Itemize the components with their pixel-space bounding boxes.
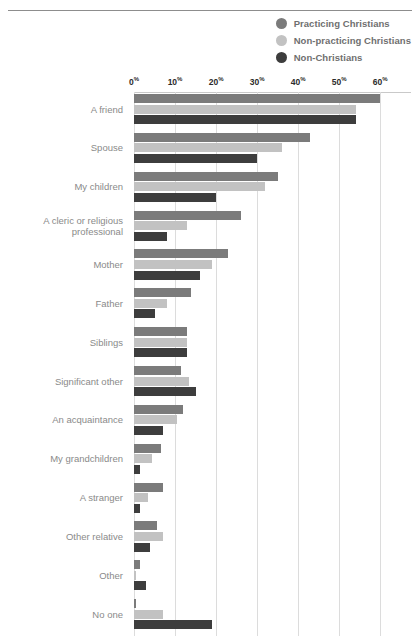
bar[interactable] bbox=[134, 143, 282, 152]
bar[interactable] bbox=[134, 581, 146, 590]
bar-group bbox=[134, 483, 411, 513]
bar-group bbox=[134, 366, 411, 396]
category-label: Spouse bbox=[0, 142, 123, 153]
bar-group bbox=[134, 599, 411, 629]
bar[interactable] bbox=[134, 366, 181, 375]
bar-group bbox=[134, 249, 411, 279]
x-axis-tick-label: 40% bbox=[291, 76, 306, 87]
bar-group bbox=[134, 521, 411, 551]
category-label: Siblings bbox=[0, 337, 123, 348]
bar[interactable] bbox=[134, 260, 212, 269]
bar[interactable] bbox=[134, 327, 187, 336]
bar[interactable] bbox=[134, 454, 152, 463]
bar[interactable] bbox=[134, 182, 265, 191]
bar[interactable] bbox=[134, 504, 140, 513]
bar[interactable] bbox=[134, 560, 140, 569]
bar[interactable] bbox=[134, 133, 310, 142]
category-label: No one bbox=[0, 609, 123, 620]
bar[interactable] bbox=[134, 415, 177, 424]
category-label: My children bbox=[0, 181, 123, 192]
bar-group bbox=[134, 94, 411, 124]
bar[interactable] bbox=[134, 115, 356, 124]
category-label: Mother bbox=[0, 259, 123, 270]
top-caption bbox=[8, 0, 412, 7]
bar[interactable] bbox=[134, 94, 380, 103]
bar-group bbox=[134, 444, 411, 474]
circle-icon bbox=[276, 35, 287, 46]
x-axis-tick-label: 60% bbox=[373, 76, 388, 87]
category-label: A stranger bbox=[0, 492, 123, 503]
bar[interactable] bbox=[134, 521, 157, 530]
x-axis-tick-label: 20% bbox=[209, 76, 224, 87]
bar[interactable] bbox=[134, 221, 187, 230]
category-label: A cleric or religious professional bbox=[0, 215, 123, 237]
bar[interactable] bbox=[134, 232, 167, 241]
bar[interactable] bbox=[134, 338, 187, 347]
x-axis-tick-label: 0% bbox=[129, 76, 139, 87]
category-label: My grandchildren bbox=[0, 453, 123, 464]
bar-group bbox=[134, 211, 411, 241]
bar[interactable] bbox=[134, 543, 150, 552]
x-axis-tick-label: 10% bbox=[168, 76, 183, 87]
circle-icon bbox=[276, 18, 287, 29]
legend-item-label: Non-practicing Christians bbox=[294, 35, 411, 46]
x-axis-tick-labels: 0%10%20%30%40%50%60% bbox=[0, 76, 419, 88]
category-label: Other bbox=[0, 570, 123, 581]
bar[interactable] bbox=[134, 493, 148, 502]
bar[interactable] bbox=[134, 444, 161, 453]
category-label: An acquaintance bbox=[0, 414, 123, 425]
category-label: A friend bbox=[0, 104, 123, 115]
bar[interactable] bbox=[134, 249, 228, 258]
legend-item-label: Practicing Christians bbox=[294, 18, 390, 29]
bar[interactable] bbox=[134, 377, 189, 386]
bar[interactable] bbox=[134, 211, 241, 220]
bar[interactable] bbox=[134, 387, 196, 396]
bar[interactable] bbox=[134, 309, 155, 318]
bar[interactable] bbox=[134, 620, 212, 629]
bar[interactable] bbox=[134, 426, 163, 435]
bar[interactable] bbox=[134, 571, 136, 580]
chart-root: Practicing ChristiansNon-practicing Chri… bbox=[0, 0, 419, 638]
bar[interactable] bbox=[134, 465, 140, 474]
legend-item-label: Non-Christians bbox=[294, 52, 363, 63]
category-label: Significant other bbox=[0, 376, 123, 387]
bar-group bbox=[134, 405, 411, 435]
legend-item[interactable]: Non-practicing Christians bbox=[276, 33, 411, 47]
bar[interactable] bbox=[134, 172, 278, 181]
bar-group bbox=[134, 172, 411, 202]
plot-area bbox=[134, 92, 411, 636]
bar[interactable] bbox=[134, 299, 167, 308]
category-label: Other relative bbox=[0, 531, 123, 542]
bar-group bbox=[134, 327, 411, 357]
bar[interactable] bbox=[134, 288, 191, 297]
legend-item[interactable]: Non-Christians bbox=[276, 50, 363, 64]
header-divider bbox=[8, 10, 412, 11]
bar[interactable] bbox=[134, 532, 163, 541]
chart-legend: Practicing ChristiansNon-practicing Chri… bbox=[276, 16, 411, 64]
bar[interactable] bbox=[134, 105, 356, 114]
bar[interactable] bbox=[134, 193, 216, 202]
bar[interactable] bbox=[134, 599, 136, 608]
bar[interactable] bbox=[134, 405, 183, 414]
x-axis-tick-label: 50% bbox=[332, 76, 347, 87]
bar[interactable] bbox=[134, 483, 163, 492]
bar-group bbox=[134, 133, 411, 163]
category-label: Father bbox=[0, 298, 123, 309]
bar-group bbox=[134, 288, 411, 318]
bar[interactable] bbox=[134, 271, 200, 280]
bar[interactable] bbox=[134, 348, 187, 357]
bar[interactable] bbox=[134, 154, 257, 163]
bar[interactable] bbox=[134, 610, 163, 619]
bar-group bbox=[134, 560, 411, 590]
x-axis-tick-label: 30% bbox=[250, 76, 265, 87]
circle-icon bbox=[276, 52, 287, 63]
legend-item[interactable]: Practicing Christians bbox=[276, 16, 390, 30]
